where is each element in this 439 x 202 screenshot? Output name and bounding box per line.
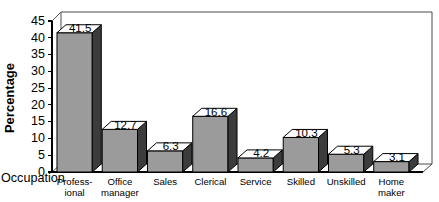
bar-front-face bbox=[57, 33, 92, 172]
y-axis-ticks: 051015202530354045 bbox=[31, 14, 52, 179]
x-axis-title: Occupation bbox=[1, 172, 53, 185]
bar-series bbox=[57, 25, 418, 172]
bar-side-face bbox=[138, 121, 147, 172]
y-tick-label: 30 bbox=[31, 64, 45, 78]
y-tick-label: 20 bbox=[31, 98, 45, 112]
y-tick-label: 40 bbox=[31, 31, 45, 45]
bar-value-label: 3.1 bbox=[389, 151, 405, 163]
bar-front-face bbox=[328, 154, 363, 172]
bar-value-label: 4.2 bbox=[253, 147, 269, 159]
bar bbox=[57, 25, 101, 172]
bar-value-label: 6.3 bbox=[163, 140, 179, 152]
bar-front-face bbox=[102, 129, 137, 172]
bar-value-label: 5.3 bbox=[344, 144, 360, 156]
bar-side-face bbox=[92, 25, 101, 172]
bar-front-face bbox=[193, 116, 228, 172]
bar-front-face bbox=[238, 158, 273, 172]
bar bbox=[193, 108, 237, 172]
y-tick-label: 45 bbox=[31, 14, 45, 28]
bar-chart-plot: 051015202530354045 Percentage 41.512.76.… bbox=[0, 0, 439, 202]
bar-front-face bbox=[283, 137, 318, 172]
bar-value-label: 12.7 bbox=[114, 119, 136, 131]
bar-value-label: 41.5 bbox=[69, 22, 91, 34]
y-tick-label: 10 bbox=[31, 131, 45, 145]
bar-value-label: 16.6 bbox=[205, 106, 227, 118]
chart-figure: 051015202530354045 Percentage 41.512.76.… bbox=[0, 0, 439, 202]
bar-side-face bbox=[228, 108, 237, 172]
bar-value-label: 10.3 bbox=[295, 127, 317, 139]
bar-front-face bbox=[374, 162, 409, 172]
y-tick-label: 25 bbox=[31, 81, 45, 95]
y-tick-label: 15 bbox=[31, 114, 45, 128]
y-tick-label: 5 bbox=[38, 148, 45, 162]
y-axis-title: Percentage bbox=[2, 63, 17, 133]
bar-front-face bbox=[147, 151, 182, 172]
y-tick-label: 35 bbox=[31, 47, 45, 61]
